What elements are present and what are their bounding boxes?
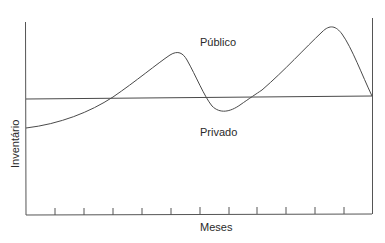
x-axis-label: Meses	[200, 221, 233, 233]
chart-canvas: Público Privado Meses Inventário	[0, 0, 385, 243]
y-axis-left	[26, 22, 27, 215]
inventory-curve	[26, 27, 372, 128]
x-axis	[26, 214, 372, 215]
upper-region-label: Público	[200, 36, 236, 48]
reference-line	[26, 96, 372, 99]
y-axis-label: Inventário	[9, 120, 21, 168]
lower-region-label: Privado	[200, 126, 237, 138]
